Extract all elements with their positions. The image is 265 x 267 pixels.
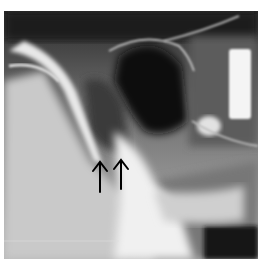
xray-illustration <box>4 11 258 259</box>
radiograph-image <box>4 11 258 259</box>
